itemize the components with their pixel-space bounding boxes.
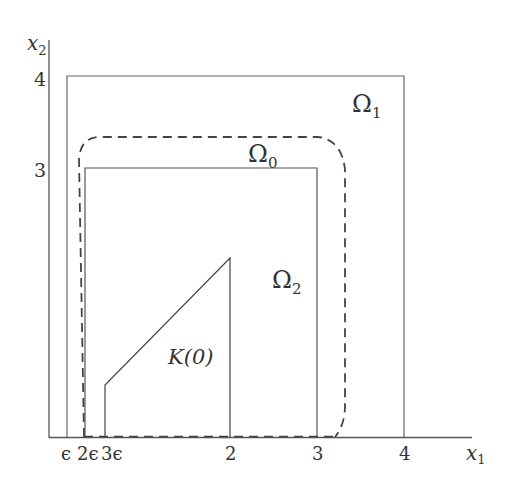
diagram-svg: x2 4 3 ϵ 2ϵ 3ϵ 2 3 4 x1 Ω1 Ω0 Ω2 K(0): [0, 0, 510, 482]
omega1-label: Ω1: [352, 90, 381, 122]
diagram-canvas: x2 4 3 ϵ 2ϵ 3ϵ 2 3 4 x1 Ω1 Ω0 Ω2 K(0): [0, 0, 510, 482]
omega0-label: Ω0: [248, 140, 277, 172]
y-tick-4: 4: [34, 68, 46, 90]
omega0-rectangle: [85, 168, 317, 437]
x-tick-3eps: 3ϵ: [101, 443, 123, 464]
x-axis-label: x1: [466, 441, 486, 467]
y-tick-3: 3: [34, 159, 46, 181]
x-tick-4: 4: [399, 443, 410, 464]
y-axis-label: x2: [27, 31, 47, 58]
x-tick-2: 2: [225, 443, 236, 464]
x-tick-3: 3: [312, 443, 323, 464]
x-tick-eps: ϵ: [61, 443, 71, 464]
omega1-boundary: [67, 76, 404, 437]
dashed-boundary: [79, 137, 345, 437]
k0-label: K(0): [167, 345, 213, 369]
omega2-label: Ω2: [272, 266, 301, 298]
x-tick-2eps: 2ϵ: [77, 443, 99, 464]
